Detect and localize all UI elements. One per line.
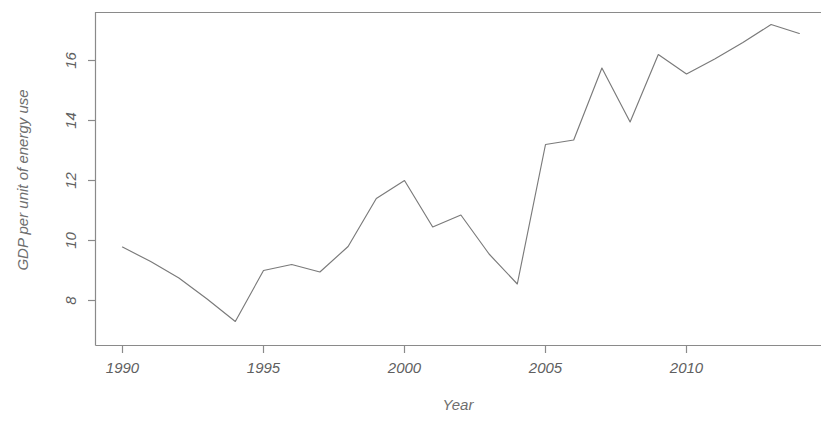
x-axis-title: Year	[443, 396, 475, 413]
x-tick-label-2010: 2010	[669, 359, 704, 376]
x-tick-label-1990: 1990	[106, 359, 140, 376]
y-axis-title: GDP per unit of energy use	[14, 89, 31, 270]
x-tick-label-2000: 2000	[387, 359, 422, 376]
x-tick-label-1995: 1995	[247, 359, 281, 376]
frame-left-top-line	[96, 13, 822, 346]
x-tick-label-2005: 2005	[528, 359, 563, 376]
y-tick-label-8: 8	[62, 296, 79, 305]
y-axis-ticks	[88, 61, 96, 301]
y-tick-label-12: 12	[62, 172, 79, 189]
x-axis-tick-labels: 1990 1995 2000 2005 2010	[106, 359, 704, 376]
data-series-line	[123, 25, 800, 322]
plot-frame	[96, 13, 822, 346]
y-tick-label-16: 16	[62, 52, 79, 69]
x-axis-ticks	[123, 346, 687, 354]
y-tick-label-14: 14	[62, 112, 79, 129]
line-chart-figure: 8 10 12 14 16 GDP per unit of energy use…	[0, 0, 822, 427]
y-tick-label-10: 10	[62, 232, 79, 249]
y-axis-tick-labels: 8 10 12 14 16	[62, 52, 79, 305]
